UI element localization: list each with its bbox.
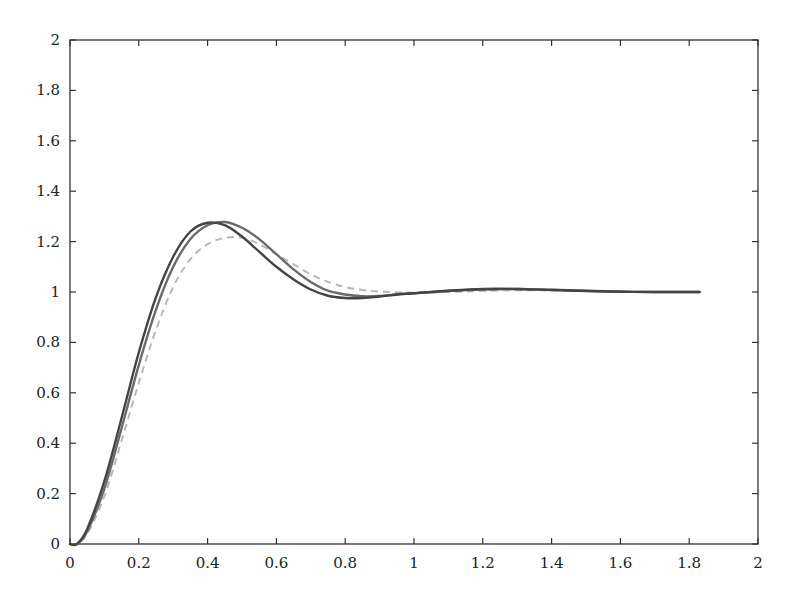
- x-tick-label: 2: [753, 554, 763, 572]
- series-line-3: [70, 237, 700, 545]
- y-tick-label: 2: [50, 31, 60, 49]
- x-tick-label: 0.4: [196, 554, 220, 572]
- x-tick-label: 1.6: [608, 554, 632, 572]
- y-tick-label: 0.2: [36, 485, 60, 503]
- x-axis-tick-labels: 00.20.40.60.811.21.41.61.82: [65, 554, 763, 572]
- x-tick-label: 0: [65, 554, 75, 572]
- y-tick-label: 0: [50, 535, 60, 553]
- data-series: [70, 222, 700, 545]
- x-tick-label: 0.8: [333, 554, 357, 572]
- x-tick-label: 0.6: [264, 554, 288, 572]
- y-tick-label: 0.4: [36, 434, 60, 452]
- x-tick-label: 1.4: [540, 554, 564, 572]
- y-tick-label: 0.6: [36, 384, 60, 402]
- line-chart: 00.20.40.60.811.21.41.61.82 00.20.40.60.…: [0, 0, 791, 605]
- x-tick-label: 0.2: [127, 554, 151, 572]
- y-tick-label: 1.2: [36, 233, 60, 251]
- y-tick-label: 1.8: [36, 81, 60, 99]
- series-line-1: [70, 222, 700, 545]
- x-tick-label: 1.8: [677, 554, 701, 572]
- y-tick-label: 1: [50, 283, 60, 301]
- x-tick-label: 1.2: [471, 554, 495, 572]
- series-line-2: [70, 222, 700, 545]
- x-tick-label: 1: [409, 554, 419, 572]
- y-axis-tick-labels: 00.20.40.60.811.21.41.61.82: [36, 31, 60, 553]
- y-tick-label: 0.8: [36, 333, 60, 351]
- y-tick-label: 1.6: [36, 132, 60, 150]
- y-tick-label: 1.4: [36, 182, 60, 200]
